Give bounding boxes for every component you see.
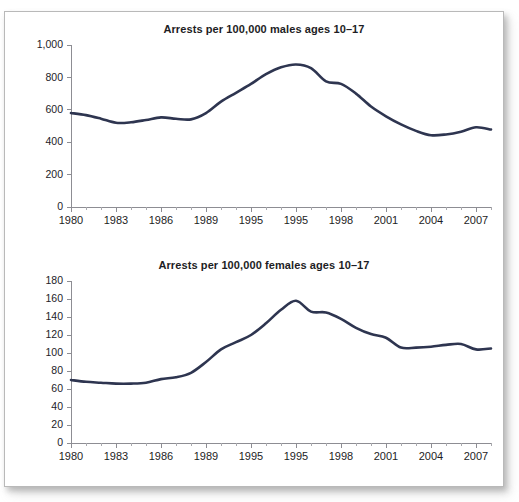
x-tick-label: 1983 xyxy=(104,450,128,462)
x-tick-label: 2007 xyxy=(464,450,488,462)
x-tick-label: 1998 xyxy=(329,450,353,462)
chart-title-males: Arrests per 100,000 males ages 10–17 xyxy=(5,23,505,35)
figure-panel: Arrests per 100,000 males ages 10–17 020… xyxy=(4,11,504,487)
x-tick-label: 1995 xyxy=(284,214,308,226)
plot-area-females: 0204060801001201401601801980198319861989… xyxy=(5,271,505,467)
x-tick-label: 1998 xyxy=(329,214,353,226)
y-tick-label: 0 xyxy=(57,200,63,212)
x-tick-label: 2004 xyxy=(419,450,443,462)
cut-off-caption xyxy=(0,0,519,9)
x-tick-label: 1989 xyxy=(194,450,218,462)
plot-svg-females: 0204060801001201401601801980198319861989… xyxy=(5,271,505,467)
x-tick-label: 1995 xyxy=(239,450,263,462)
y-tick-label: 140 xyxy=(45,310,63,322)
y-tick-label: 200 xyxy=(45,168,63,180)
x-tick-label: 1980 xyxy=(59,214,83,226)
x-tick-label: 1983 xyxy=(104,214,128,226)
plot-area-males: 02004006008001,0001980198319861989199519… xyxy=(5,35,505,231)
y-tick-label: 0 xyxy=(57,436,63,448)
x-tick-label: 1986 xyxy=(149,450,173,462)
x-tick-label: 1989 xyxy=(194,214,218,226)
x-tick-label: 2001 xyxy=(374,450,398,462)
chart-title-females: Arrests per 100,000 females ages 10–17 xyxy=(5,259,505,271)
x-tick-label: 2007 xyxy=(464,214,488,226)
y-tick-label: 80 xyxy=(51,364,63,376)
y-tick-label: 20 xyxy=(51,418,63,430)
y-tick-label: 800 xyxy=(45,71,63,83)
y-tick-label: 160 xyxy=(45,292,63,304)
x-tick-label: 2001 xyxy=(374,214,398,226)
y-tick-label: 600 xyxy=(45,103,63,115)
plot-svg-males: 02004006008001,0001980198319861989199519… xyxy=(5,35,505,231)
x-tick-label: 2004 xyxy=(419,214,443,226)
y-tick-label: 40 xyxy=(51,400,63,412)
x-tick-label: 1986 xyxy=(149,214,173,226)
x-tick-label: 1995 xyxy=(239,214,263,226)
y-tick-label: 1,000 xyxy=(37,38,63,50)
arrests-females-chart: Arrests per 100,000 females ages 10–17 0… xyxy=(5,252,505,484)
y-tick-label: 100 xyxy=(45,346,63,358)
y-tick-label: 120 xyxy=(45,328,63,340)
y-tick-label: 180 xyxy=(45,274,63,286)
data-series-line xyxy=(71,64,491,135)
data-series-line xyxy=(71,301,491,384)
y-tick-label: 60 xyxy=(51,382,63,394)
x-tick-label: 1980 xyxy=(59,450,83,462)
x-tick-label: 1995 xyxy=(284,450,308,462)
arrests-males-chart: Arrests per 100,000 males ages 10–17 020… xyxy=(5,16,505,248)
y-tick-label: 400 xyxy=(45,135,63,147)
